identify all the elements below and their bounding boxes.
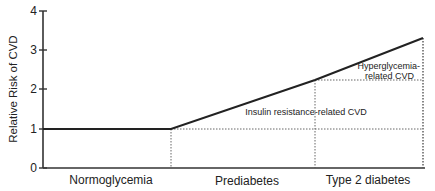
y-tick-labels: 0 1 2 3 4 [30,4,37,175]
category-type2-diabetes: Type 2 diabetes [326,173,411,187]
y-tick-3: 3 [30,43,37,57]
chart: 0 1 2 3 4 Relative Risk of CVD Insulin r… [0,0,435,191]
annotation-insulin-resistance: Insulin resistance-related CVD [245,107,367,117]
category-prediabetes: Prediabetes [215,174,279,188]
y-tick-1: 1 [30,122,37,136]
x-category-labels: Normoglycemia Prediabetes Type 2 diabete… [69,173,410,188]
y-axis-label: Relative Risk of CVD [7,35,19,142]
annotation-hyperglycemia-line1: Hyperglycemia- [357,61,420,71]
reference-lines [171,38,423,168]
y-tick-0: 0 [30,161,37,175]
category-normoglycemia: Normoglycemia [69,173,153,187]
annotation-hyperglycemia-line2: related CVD [365,71,415,81]
y-tick-4: 4 [30,4,37,18]
y-tick-2: 2 [30,82,37,96]
